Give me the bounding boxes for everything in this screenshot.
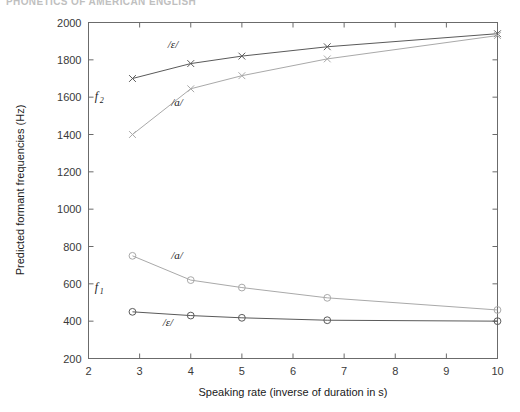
x-tick-label: 6: [290, 365, 296, 377]
formant-subscript: 1: [100, 287, 104, 296]
annotation-f2-a: /a/: [170, 96, 184, 108]
x-tick-label: 5: [239, 365, 245, 377]
x-tick-label: 8: [392, 365, 398, 377]
x-tick-label: 7: [341, 365, 347, 377]
series-f1-3: [129, 308, 501, 324]
x-axis-tick-labels: 2345678910: [85, 365, 503, 377]
x-tick-label: 2: [85, 365, 91, 377]
x-axis-ticks: [89, 23, 498, 359]
formant-frequency-chart: 200400600800100012001400160018002000 234…: [0, 0, 520, 412]
chart-svg: 200400600800100012001400160018002000 234…: [0, 0, 520, 412]
formant-subscript: 2: [100, 96, 104, 105]
plot-frame: [89, 23, 498, 359]
series-line: [132, 34, 497, 79]
y-axis-title: Predicted formant frequencies (Hz): [14, 105, 26, 276]
y-axis-tick-labels: 200400600800100012001400160018002000: [57, 17, 81, 365]
x-axis-title: Speaking rate (inverse of duration in s): [199, 386, 388, 398]
y-tick-label: 1000: [57, 203, 81, 215]
y-tick-label: 1600: [57, 91, 81, 103]
annotation-f2-tag: f2: [95, 89, 104, 105]
y-tick-label: 800: [63, 241, 81, 253]
annotation-f2-eps: /ɛ/: [167, 38, 179, 50]
y-tick-label: 600: [63, 278, 81, 290]
series-annotation-layer: /ɛ//a//a//ɛ/f2f1: [95, 38, 184, 329]
y-axis-ticks: [89, 23, 498, 359]
x-tick-label: 10: [491, 365, 503, 377]
x-tick-label: 9: [443, 365, 449, 377]
x-tick-label: 4: [188, 365, 194, 377]
series-f1-2: [129, 252, 501, 313]
x-tick-label: 3: [137, 365, 143, 377]
y-tick-label: 400: [63, 315, 81, 327]
annotation-f1-a: /a/: [170, 249, 184, 261]
series-line: [132, 36, 497, 135]
data-series-layer: [129, 30, 501, 324]
y-tick-label: 200: [63, 353, 81, 365]
y-tick-label: 1800: [57, 54, 81, 66]
annotation-f1-eps: /ɛ/: [162, 316, 174, 328]
data-point-marker: [129, 252, 136, 259]
series-f2-0: [129, 30, 501, 82]
y-tick-label: 1200: [57, 166, 81, 178]
y-tick-label: 1400: [57, 129, 81, 141]
series-line: [132, 256, 497, 310]
annotation-f1-tag: f1: [95, 280, 104, 296]
y-tick-label: 2000: [57, 17, 81, 29]
